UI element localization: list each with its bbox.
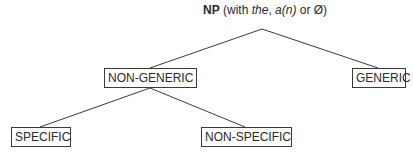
node-specific: SPECIFIC (11, 127, 71, 147)
node-non-specific: NON-SPECIFIC (201, 127, 292, 147)
node-generic: GENERIC (352, 68, 406, 88)
edge-non-generic-specific (40, 88, 150, 127)
edge-non-generic-non-specific (150, 88, 245, 127)
edge-root-generic (262, 29, 378, 68)
node-non-generic: NON-GENERIC (104, 68, 197, 88)
edge-root-non-generic (150, 29, 262, 68)
